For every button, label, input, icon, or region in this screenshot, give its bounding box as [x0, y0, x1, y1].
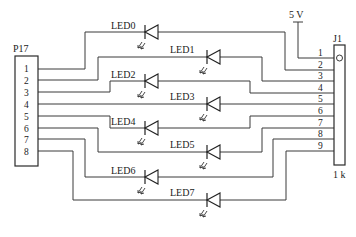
- led0-label: LED0: [111, 20, 135, 31]
- p17-pin-2: 2: [24, 76, 29, 86]
- j1-pin-3: 3: [318, 71, 323, 81]
- light-emission-icon: [138, 42, 145, 49]
- light-emission-icon: [200, 210, 207, 217]
- p17-pin-8: 8: [24, 147, 29, 157]
- j1-label: J1: [333, 33, 342, 44]
- j1-pin-4: 4: [318, 83, 323, 93]
- light-emission-icon: [200, 114, 207, 121]
- light-emission-icon: [138, 138, 145, 145]
- diode-icon: [145, 121, 158, 135]
- led5: LED5: [170, 139, 220, 169]
- light-emission-icon: [138, 187, 145, 194]
- connector-j1: J1 1 k 1 2 3 4 5 6 7 8 9: [318, 33, 346, 180]
- p17-pin-4: 4: [24, 100, 29, 110]
- j1-pin-2: 2: [318, 60, 323, 70]
- led7: LED7: [170, 187, 220, 217]
- p17-pin-6: 6: [24, 124, 29, 134]
- led1-label: LED1: [170, 44, 194, 55]
- led4-label: LED4: [111, 116, 135, 127]
- power-label: 5 V: [289, 9, 304, 20]
- j1-pin-6: 6: [318, 106, 323, 116]
- p17-pin-7: 7: [24, 135, 29, 145]
- diode-icon: [145, 170, 158, 184]
- j1-pin-8: 8: [318, 129, 323, 139]
- light-emission-icon: [138, 91, 145, 98]
- j1-pin-1: 1: [318, 48, 323, 58]
- led2-label: LED2: [111, 69, 135, 80]
- diode-icon: [207, 145, 220, 159]
- led5-label: LED5: [170, 139, 194, 150]
- p17-pin-5: 5: [24, 112, 29, 122]
- diode-icon: [207, 97, 220, 111]
- led1: LED1: [170, 44, 220, 74]
- j1-pin-9: 9: [318, 141, 323, 151]
- j1-pin-7: 7: [318, 118, 323, 128]
- led2: LED2: [111, 69, 158, 98]
- led6-label: LED6: [111, 165, 135, 176]
- light-emission-icon: [200, 162, 207, 169]
- p17-pin-1: 1: [24, 64, 29, 74]
- wire-5v-j1-1: [298, 22, 334, 58]
- diode-icon: [145, 25, 158, 39]
- led3-label: LED3: [170, 91, 194, 102]
- diode-icon: [145, 74, 158, 88]
- wire-led4: [38, 116, 334, 128]
- diode-icon: [207, 193, 220, 207]
- j1-pin-5: 5: [318, 94, 323, 104]
- p17-pin-3: 3: [24, 88, 29, 98]
- led3: LED3: [170, 91, 220, 121]
- diode-icon: [207, 50, 220, 64]
- led7-label: LED7: [170, 187, 194, 198]
- light-emission-icon: [200, 67, 207, 74]
- j1-value: 1 k: [333, 169, 346, 180]
- connector-p17: P17 1 2 3 4 5 6 7 8: [13, 43, 38, 166]
- j1-body: [334, 45, 345, 165]
- led4: LED4: [111, 116, 158, 145]
- led6: LED6: [111, 165, 158, 194]
- circuit-diagram: P17 1 2 3 4 5 6 7 8 J1 1 k 1 2 3 4 5 6 7…: [0, 0, 356, 237]
- p17-label: P17: [13, 43, 29, 54]
- led0: LED0: [111, 20, 158, 49]
